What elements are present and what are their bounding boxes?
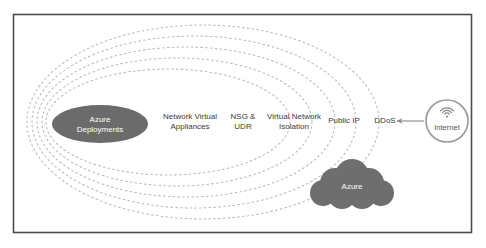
azure-deployments-label: Azure Deployments [77, 115, 124, 134]
layer-label-ddos: DDoS [374, 116, 395, 126]
layer-label-nsg-udr: NSG & UDR [231, 112, 256, 131]
internet-circle-ring [426, 100, 468, 142]
layer-label-network-virtual-appliances: Network Virtual Appliances [163, 112, 217, 131]
diagram-root: Azure Deployments Azure Internet Network… [0, 0, 486, 248]
layer-label-public-ip: Public IP [328, 116, 360, 126]
internet-label: Internet [434, 123, 459, 133]
azure-cloud-label: Azure [342, 182, 363, 192]
layer-label-virtual-network-isolation: Virtual Network Isolation [267, 112, 321, 131]
